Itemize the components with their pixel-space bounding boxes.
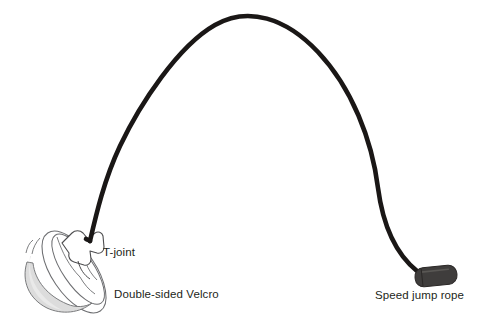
- label-speed-jump-rope: Speed jump rope: [375, 289, 464, 301]
- rope-handle-body: [414, 264, 458, 287]
- product-diagram: [0, 0, 485, 331]
- label-t-joint: T-joint: [103, 246, 135, 258]
- rope-t-joint-entry: [86, 239, 90, 241]
- figure-canvas: T-joint Double-sided Velcro Speed jump r…: [0, 0, 485, 331]
- label-double-sided-velcro: Double-sided Velcro: [114, 288, 219, 300]
- rope-handle-group: [414, 264, 458, 287]
- band-overlap-notch: [26, 240, 33, 253]
- speed-jump-rope-cord: [90, 16, 417, 271]
